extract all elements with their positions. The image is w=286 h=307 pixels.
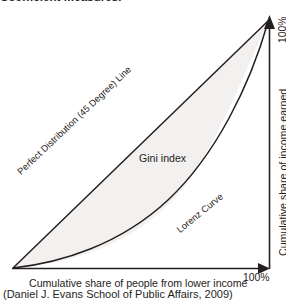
y-axis-max-tick-label: 100% [277,16,286,43]
lorenz-curve-svg [0,0,286,280]
y-axis-arrowhead [264,15,275,29]
gini-index-label: Gini index [139,152,186,164]
y-axis-title: Cumulative share of income earned [277,89,286,256]
source-caption: (Daniel J. Evans School of Public Affair… [3,288,233,300]
lorenz-curve-figure: Perfect Distribution (45 Degree) Line Gi… [0,0,286,280]
